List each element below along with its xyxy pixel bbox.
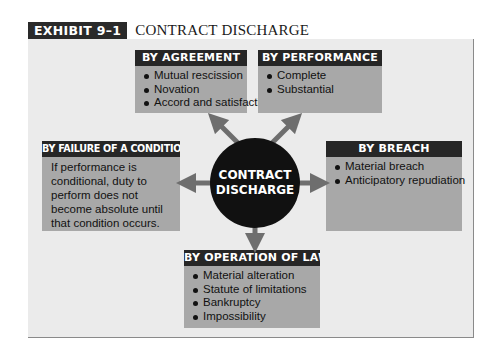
- hub-line-2: DISCHARGE: [216, 183, 295, 198]
- hub-line-1: CONTRACT: [219, 168, 292, 183]
- contract-discharge-hub: CONTRACT DISCHARGE: [210, 138, 300, 228]
